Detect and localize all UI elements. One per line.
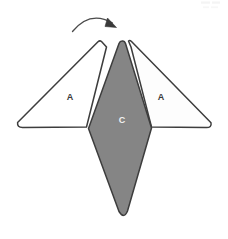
right-flap-label: A bbox=[158, 92, 165, 102]
center-kite-label: C bbox=[119, 115, 126, 125]
diagram-canvas: A A C bbox=[0, 0, 228, 239]
left-flap-label: A bbox=[67, 92, 74, 102]
folding-diagram-figure: A A C bbox=[0, 0, 228, 239]
